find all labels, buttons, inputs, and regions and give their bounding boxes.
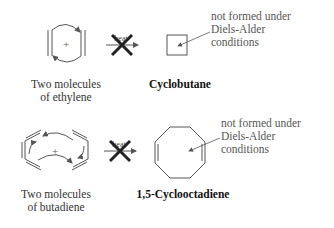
electron-arrow-icon xyxy=(52,24,80,32)
label-line: of butadiene xyxy=(10,201,102,214)
label-line: Two molecules xyxy=(10,188,102,201)
note-line: conditions xyxy=(221,143,301,156)
label-line: of ethylene xyxy=(20,91,112,104)
electron-arrow-icon xyxy=(53,56,81,62)
plus-sign: + xyxy=(63,38,69,50)
electron-arrow-icon xyxy=(29,142,36,154)
note-cyclooctadiene: not formed under Diels-Alder conditions xyxy=(221,117,301,156)
note-cyclobutane: not formed under Diels-Alder conditions xyxy=(211,10,291,49)
plus-sign: + xyxy=(52,145,58,157)
electron-arrow-icon xyxy=(43,133,73,140)
cyclobutane-structure xyxy=(167,35,187,55)
cyclooctadiene-structure xyxy=(155,127,205,178)
reactant-label-butadiene: Two molecules of butadiene xyxy=(10,188,102,214)
note-line: Diels-Alder xyxy=(221,130,301,143)
electron-arrow-icon xyxy=(78,146,84,158)
pointer-arrow-icon xyxy=(178,32,210,46)
note-line: not formed under xyxy=(221,117,301,130)
product-label-cyclooctadiene: 1,5-Cyclooctadiene xyxy=(128,188,238,201)
reaction-arrow-1: heat xyxy=(106,34,138,55)
reactant-label-ethylene: Two molecules of ethylene xyxy=(20,78,112,104)
note-line: not formed under xyxy=(211,10,291,23)
product-label-cyclobutane: Cyclobutane xyxy=(140,78,220,91)
note-line: conditions xyxy=(211,36,291,49)
label-line: Two molecules xyxy=(20,78,112,91)
reaction-arrow-2: heat xyxy=(104,140,136,161)
note-line: Diels-Alder xyxy=(211,23,291,36)
